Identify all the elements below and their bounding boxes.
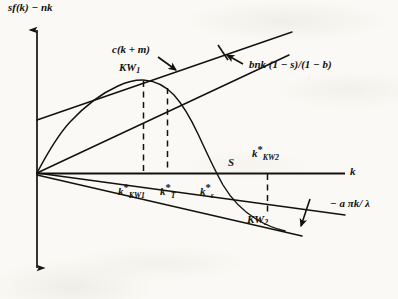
ckm-annotation-label: c(k + m): [112, 44, 150, 55]
bnk-annotation-label: bnk (1 − s)/(1 − b): [249, 59, 332, 70]
kw2-subscript: 2: [264, 218, 268, 227]
k-star-kw2-sub: KW: [263, 153, 275, 162]
ckm-pointer-arrow: [158, 57, 176, 70]
apikl-line: [37, 173, 345, 215]
kw1-point-label: KW1: [119, 62, 140, 75]
k-star-kw2-star: *: [258, 144, 263, 155]
tick-label-k-star-kw2: k*KW2: [252, 145, 279, 162]
k-star-kw1-sub2: 1: [141, 191, 145, 200]
k-star-s-star: *: [206, 182, 211, 193]
figure-canvas: sf(k) − nk c(k + m) KW1 bnk (1 − s)/(1 −…: [0, 0, 398, 299]
k-star-t-star: *: [166, 182, 171, 193]
x-axis-label: k: [350, 166, 356, 177]
tick-label-k-star-kw1: k*KW1: [118, 183, 145, 200]
k-star-kw1-sub: KW: [129, 191, 141, 200]
tick-label-k-star-s: k*s: [200, 183, 214, 200]
pointer-arrows-group: [158, 45, 310, 226]
kw2-base: KW: [247, 213, 264, 225]
tick-label-k-star-t: k*T: [160, 183, 176, 200]
kw1-base: KW: [119, 61, 136, 73]
bnk-pointer-arrow: [227, 55, 243, 64]
kw2-point-label: KW2: [247, 214, 268, 227]
s-point-label: S: [228, 157, 234, 168]
k-star-kw1-star: *: [124, 182, 129, 193]
apikl-annotation-label: − a πk/ λ: [330, 198, 370, 209]
k-star-kw2-sub2: 2: [275, 153, 279, 162]
apikl-pointer-arrow: [301, 199, 310, 226]
y-axis-label: sf(k) − nk: [8, 2, 53, 13]
kw1-subscript: 1: [136, 66, 140, 75]
ckm-line: [37, 32, 292, 120]
diagram-svg: [0, 0, 398, 299]
k-star-t-sub: T: [171, 191, 176, 200]
k-star-s-sub: s: [211, 191, 214, 200]
